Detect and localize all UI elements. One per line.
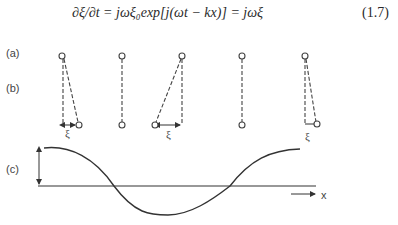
pendulum-5 bbox=[302, 53, 320, 127]
pendulum-2 bbox=[119, 53, 125, 128]
xi-label-3: ξ bbox=[166, 128, 171, 141]
x-axis-label: x bbox=[321, 189, 327, 201]
pendulum-3 bbox=[152, 53, 185, 128]
xi-label-1: ξ bbox=[65, 127, 70, 140]
xi-label-5: ξ bbox=[305, 130, 310, 143]
pendulum-4 bbox=[239, 53, 245, 128]
wave-curve bbox=[44, 148, 300, 215]
pendulum-1 bbox=[59, 53, 82, 128]
wave-panel: x bbox=[38, 148, 327, 215]
figure-diagram: ξ ξ ξ x bbox=[0, 0, 398, 225]
